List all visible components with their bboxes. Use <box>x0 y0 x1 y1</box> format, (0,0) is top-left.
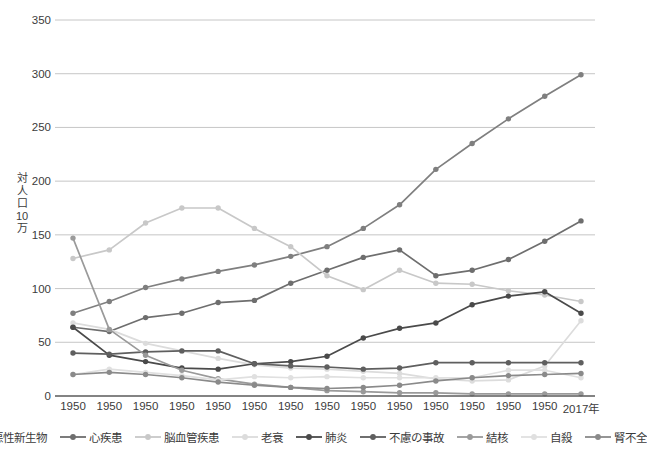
data-point <box>215 366 220 371</box>
data-point <box>397 268 402 273</box>
x-axis-tick-label: 1950 <box>350 400 376 412</box>
data-point <box>143 372 148 377</box>
data-point <box>107 370 112 375</box>
data-point <box>324 354 329 359</box>
legend-marker-icon <box>135 432 161 442</box>
legend-item-1[interactable]: 心疾患 <box>60 429 122 445</box>
data-point <box>433 167 438 172</box>
data-point <box>506 373 511 378</box>
x-axis-tick-label: 1950 <box>133 400 159 412</box>
data-point <box>324 273 329 278</box>
data-point <box>542 360 547 365</box>
data-point <box>252 298 257 303</box>
data-point <box>70 311 75 316</box>
data-point <box>506 288 511 293</box>
gridlines <box>55 20 595 342</box>
data-point <box>70 325 75 330</box>
data-point <box>542 289 547 294</box>
data-point <box>143 315 148 320</box>
legend-marker-icon <box>521 432 547 442</box>
data-point <box>433 390 438 395</box>
legend-item-8[interactable]: 腎不全 <box>585 429 647 445</box>
data-point <box>542 239 547 244</box>
data-point <box>288 363 293 368</box>
legend-marker-icon <box>585 432 611 442</box>
x-axis-tick-label: 1950 <box>496 400 522 412</box>
data-point <box>179 276 184 281</box>
data-point <box>143 352 148 357</box>
data-point <box>578 311 583 316</box>
data-point <box>252 262 257 267</box>
data-point <box>143 341 148 346</box>
data-point <box>469 141 474 146</box>
x-axis-tick-label: 1950 <box>60 400 86 412</box>
legend-item-2[interactable]: 脳血管疾患 <box>135 429 219 445</box>
data-point <box>433 281 438 286</box>
x-axis-tick-label: 1950 <box>169 400 195 412</box>
data-point <box>288 244 293 249</box>
y-axis-tick-label: 100 <box>7 283 51 295</box>
data-point <box>324 364 329 369</box>
data-point <box>361 385 366 390</box>
data-point <box>252 374 257 379</box>
series-layer <box>70 72 583 396</box>
data-point <box>397 383 402 388</box>
data-point <box>107 247 112 252</box>
data-point <box>107 299 112 304</box>
data-point <box>70 235 75 240</box>
x-axis-tick-label: 2017年 <box>563 400 600 416</box>
data-point <box>361 335 366 340</box>
data-point <box>70 372 75 377</box>
data-point <box>361 375 366 380</box>
legend-marker-icon <box>457 432 483 442</box>
data-point <box>361 287 366 292</box>
data-point <box>433 273 438 278</box>
data-point <box>578 299 583 304</box>
data-point <box>252 361 257 366</box>
data-point <box>288 254 293 259</box>
y-axis-tick-label: 300 <box>7 68 51 80</box>
data-point <box>506 293 511 298</box>
data-point <box>215 205 220 210</box>
plot-area <box>55 20 595 396</box>
data-point <box>578 371 583 376</box>
legend-item-5[interactable]: 不慮の事故 <box>360 429 444 445</box>
legend-label: 結核 <box>486 429 508 445</box>
data-point <box>578 72 583 77</box>
y-axis-tick-labels: 050100150200250300350 <box>0 20 51 396</box>
data-point <box>542 372 547 377</box>
legend-item-0[interactable]: 悪性新生物 <box>0 429 47 445</box>
data-point <box>506 257 511 262</box>
data-point <box>252 383 257 388</box>
data-point <box>179 348 184 353</box>
y-axis-tick-label: 0 <box>7 390 51 402</box>
data-point <box>469 282 474 287</box>
data-point <box>361 226 366 231</box>
legend-marker-icon <box>360 432 386 442</box>
data-point <box>542 94 547 99</box>
data-point <box>433 378 438 383</box>
y-axis-tick-label: 200 <box>7 175 51 187</box>
legend-item-6[interactable]: 結核 <box>457 429 508 445</box>
legend-item-4[interactable]: 肺炎 <box>296 429 347 445</box>
x-axis-tick-label: 1950 <box>278 400 304 412</box>
data-point <box>397 202 402 207</box>
x-axis-tick-label: 1950 <box>242 400 268 412</box>
legend-marker-icon <box>60 432 86 442</box>
legend-label: 心疾患 <box>89 429 122 445</box>
data-point <box>469 360 474 365</box>
data-point <box>179 311 184 316</box>
data-point <box>215 356 220 361</box>
legend-item-7[interactable]: 自殺 <box>521 429 572 445</box>
data-point <box>288 375 293 380</box>
data-point <box>70 350 75 355</box>
chart-legend: 悪性新生物心疾患脳血管疾患老衰肺炎不慮の事故結核自殺腎不全 <box>0 426 610 448</box>
data-point <box>578 318 583 323</box>
plot-svg <box>55 20 595 396</box>
data-point <box>143 359 148 364</box>
legend-label: 不慮の事故 <box>389 429 444 445</box>
data-point <box>469 375 474 380</box>
data-point <box>397 326 402 331</box>
x-axis-tick-label: 1950 <box>205 400 231 412</box>
legend-item-3[interactable]: 老衰 <box>232 429 283 445</box>
